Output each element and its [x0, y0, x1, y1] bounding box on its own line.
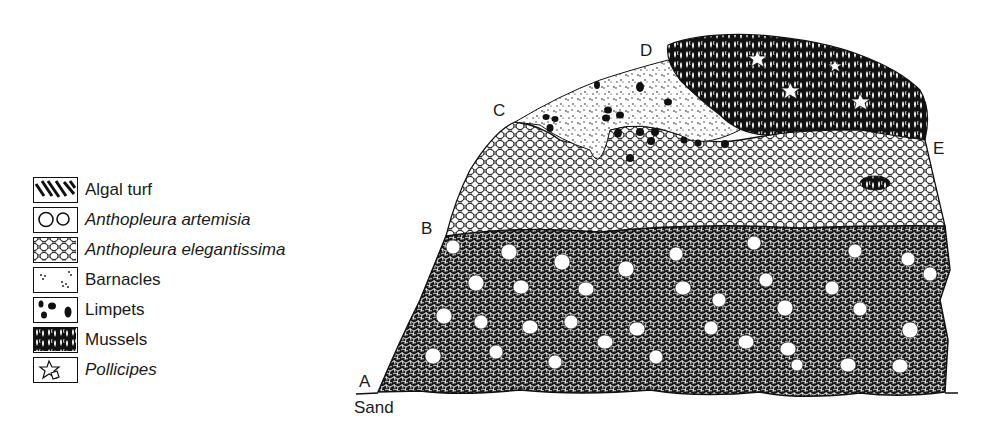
barnacle-dots-icon — [33, 267, 78, 293]
legend-label: Anthopleura elegantissima — [85, 240, 285, 260]
anemone-circles-icon — [33, 207, 78, 233]
anemone-mesh-icon — [33, 237, 78, 263]
legend-label: Anthopleura artemisia — [85, 210, 250, 230]
legend-item-limpets: Limpets — [33, 295, 285, 325]
mussel-clump — [860, 176, 890, 190]
point-label-d: D — [640, 41, 652, 61]
legend-item-anthopleura-elegantissima: Anthopleura elegantissima — [33, 235, 285, 265]
point-label-c: C — [493, 101, 505, 121]
sand-label: Sand — [354, 398, 394, 418]
legend-label: Algal turf — [85, 180, 152, 200]
pollicipes-star-icon — [33, 357, 78, 383]
legend-item-barnacles: Barnacles — [33, 265, 285, 295]
legend-label: Mussels — [85, 330, 147, 350]
algal-turf-icon — [33, 177, 78, 203]
legend-item-pollicipes: Pollicipes — [33, 355, 285, 385]
legend-label: Pollicipes — [85, 360, 157, 380]
legend-item-mussels: Mussels — [33, 325, 285, 355]
legend-item-algal-turf: Algal turf — [33, 175, 285, 205]
limpet-blobs-icon — [33, 297, 78, 323]
legend-label: Barnacles — [85, 270, 161, 290]
mussel-cluster-icon — [33, 327, 78, 353]
point-label-a: A — [359, 372, 370, 392]
legend-label: Limpets — [85, 300, 145, 320]
legend-item-anthopleura-artemisia: Anthopleura artemisia — [33, 205, 285, 235]
point-label-e: E — [933, 139, 944, 159]
point-label-b: B — [421, 219, 432, 239]
legend: Algal turf Anthopleura artemisia Anthopl… — [33, 175, 285, 385]
